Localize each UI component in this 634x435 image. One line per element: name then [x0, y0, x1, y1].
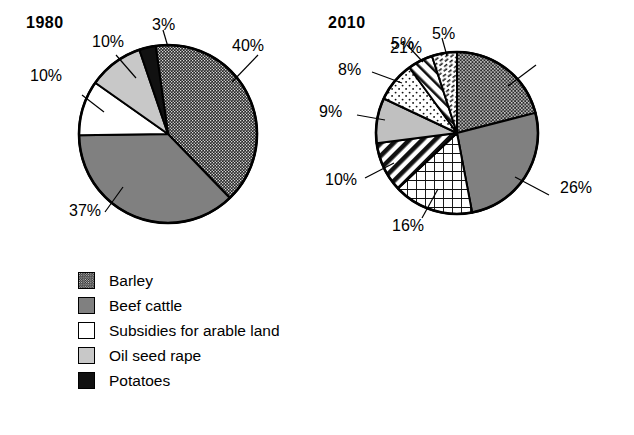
legend-1980: BarleyBeef cattleSubsidies for arable la…: [78, 268, 280, 393]
pie2010-pct-label: 9%: [319, 104, 342, 120]
legend1980-legend-item[interactable]: Potatoes: [78, 368, 280, 393]
legend1980-legend-swatch-white: [78, 322, 95, 339]
legend1980-legend-swatch-midgray: [78, 297, 95, 314]
pie2010-pct-label: 16%: [392, 218, 424, 234]
legend1980-legend-item[interactable]: Barley: [78, 268, 280, 293]
legend1980-legend-label: Subsidies for arable land: [109, 322, 280, 340]
legend1980-legend-label: Beef cattle: [109, 297, 182, 315]
legend1980-legend-label: Oil seed rape: [109, 347, 201, 365]
legend1980-legend-item[interactable]: Beef cattle: [78, 293, 280, 318]
pie2010-pct-label: 8%: [338, 62, 361, 78]
legend1980-legend-label: Barley: [109, 272, 153, 290]
legend1980-legend-swatch-checker: [78, 272, 95, 289]
pie2010-pct-label: 5%: [432, 26, 455, 42]
pie2010-pct-label: 5%: [391, 36, 414, 52]
pct-label-group-2010: 21%26%16%10%9%8%5%5%: [0, 0, 634, 260]
pie2010-pct-label: 10%: [325, 172, 357, 188]
pie2010-pct-label: 26%: [560, 180, 592, 196]
legend1980-legend-swatch-lightgray: [78, 347, 95, 364]
legend1980-legend-label: Potatoes: [109, 372, 170, 390]
legend1980-legend-item[interactable]: Oil seed rape: [78, 343, 280, 368]
legend1980-legend-item[interactable]: Subsidies for arable land: [78, 318, 280, 343]
legend1980-legend-swatch-black: [78, 372, 95, 389]
